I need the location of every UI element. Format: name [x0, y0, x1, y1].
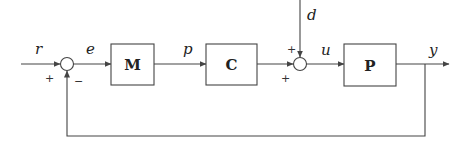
- block-m: M: [111, 44, 154, 85]
- block-p-label: P: [364, 57, 375, 75]
- output-signal-label: y: [428, 41, 438, 59]
- summing-junction-2: [294, 58, 307, 71]
- reference-signal-label: r: [35, 40, 43, 58]
- block-diagram: r + − e M p C + d + u P y: [0, 0, 472, 146]
- disturbance-signal-label: d: [307, 6, 317, 24]
- sum1-minus-sign: −: [74, 75, 83, 88]
- m-output-label: p: [183, 40, 193, 58]
- block-m-label: M: [124, 56, 141, 74]
- block-c: C: [206, 44, 257, 85]
- sum2-plus-sign-top: +: [287, 43, 296, 56]
- control-input-label: u: [321, 41, 331, 59]
- error-signal-label: e: [86, 40, 95, 58]
- block-c-label: C: [226, 56, 238, 74]
- block-p: P: [344, 44, 396, 86]
- sum1-plus-sign: +: [45, 72, 54, 85]
- summing-junction-1: [61, 58, 74, 71]
- sum2-plus-sign-left: +: [281, 72, 290, 85]
